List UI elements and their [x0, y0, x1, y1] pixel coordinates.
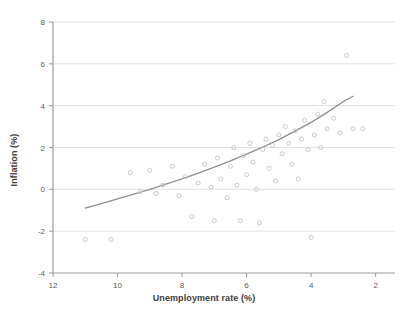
data-point	[361, 127, 365, 131]
data-point	[274, 179, 278, 183]
data-point	[212, 219, 216, 223]
x-axis-ticks	[49, 22, 376, 277]
x-tick-label: 4	[309, 281, 313, 290]
data-point	[196, 181, 200, 185]
data-point	[280, 152, 284, 156]
plot-canvas	[0, 0, 408, 320]
fit-line	[85, 96, 353, 208]
data-point	[219, 177, 223, 181]
x-tick-label: 6	[244, 281, 248, 290]
data-point	[316, 112, 320, 116]
x-tick-label: 12	[49, 281, 58, 290]
y-tick-label: 4	[0, 101, 45, 110]
data-point	[322, 99, 326, 103]
data-point	[245, 173, 249, 177]
y-tick-label: 2	[0, 143, 45, 152]
y-tick-label: 6	[0, 59, 45, 68]
data-point	[257, 221, 261, 225]
data-point	[128, 171, 132, 175]
y-tick-label: 8	[0, 18, 45, 27]
data-point	[277, 133, 281, 137]
y-axis-title: Inflation (%)	[9, 134, 19, 187]
data-point	[203, 162, 207, 166]
x-tick-label: 8	[180, 281, 184, 290]
data-point	[325, 127, 329, 131]
data-point	[299, 137, 303, 141]
data-point	[238, 219, 242, 223]
data-point	[287, 141, 291, 145]
data-point	[303, 118, 307, 122]
data-point	[312, 133, 316, 137]
data-point	[148, 169, 152, 173]
x-tick-label: 2	[373, 281, 377, 290]
gridlines	[53, 22, 395, 231]
data-point	[345, 53, 349, 57]
fit-line-path	[85, 96, 353, 208]
data-point	[290, 162, 294, 166]
data-point	[309, 235, 313, 239]
data-point	[83, 238, 87, 242]
data-point	[177, 194, 181, 198]
x-axis-title: Unemployment rate (%)	[0, 293, 408, 303]
scatter-chart: -4-202468 12108642 Inflation (%) Unemplo…	[0, 0, 408, 320]
data-point	[170, 164, 174, 168]
data-point	[209, 185, 213, 189]
data-point	[251, 160, 255, 164]
data-point	[264, 137, 268, 141]
data-point	[248, 141, 252, 145]
data-point	[267, 166, 271, 170]
y-tick-label: -4	[0, 269, 45, 278]
data-point	[332, 116, 336, 120]
data-point	[351, 127, 355, 131]
data-point	[306, 148, 310, 152]
data-point	[225, 196, 229, 200]
y-tick-label: -2	[0, 227, 45, 236]
data-point	[190, 215, 194, 219]
data-point	[228, 164, 232, 168]
data-point	[109, 238, 113, 242]
data-point	[154, 192, 158, 196]
x-tick-label: 10	[113, 281, 122, 290]
data-point	[270, 143, 274, 147]
data-point	[216, 156, 220, 160]
y-tick-label: 0	[0, 185, 45, 194]
data-point	[296, 177, 300, 181]
data-point	[283, 125, 287, 129]
data-point	[261, 148, 265, 152]
data-point	[338, 131, 342, 135]
data-point	[235, 183, 239, 187]
